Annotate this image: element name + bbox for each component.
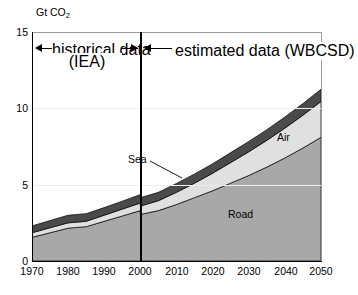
plot-frame-left — [32, 32, 33, 262]
x-tick-label-2000: 2000 — [120, 266, 160, 277]
y-axis-unit-text: Gt CO — [36, 6, 66, 18]
series-label-sea: Sea — [128, 154, 147, 165]
y-tick-label-10: 10 — [2, 103, 28, 114]
historical-arrow-head-left — [35, 44, 42, 52]
x-tick-label-2040: 2040 — [266, 266, 306, 277]
x-tick-label-1970: 1970 — [12, 266, 52, 277]
plot-frame-top — [32, 32, 322, 33]
year-2000-divider — [140, 32, 141, 262]
x-tick-label-1990: 1990 — [84, 266, 124, 277]
series-label-road: Road — [228, 209, 253, 220]
plot-area: historical data (IEA) estimated data (WB… — [32, 32, 322, 262]
y-axis-title: Gt CO2 — [36, 7, 70, 19]
x-tick-label-2010: 2010 — [157, 266, 197, 277]
series-label-air: Air — [277, 132, 290, 143]
historical-label-line2: (IEA) — [52, 53, 122, 71]
gridline-5 — [33, 185, 321, 186]
x-tick-label-1980: 1980 — [48, 266, 88, 277]
y-tick-label-15: 15 — [2, 27, 28, 38]
gridline-10 — [33, 108, 321, 109]
plot-frame-right — [321, 32, 322, 262]
x-tick-label-2050: 2050 — [301, 266, 341, 277]
y-axis-unit-subscript: 2 — [66, 11, 70, 20]
y-tick-label-5: 5 — [2, 180, 28, 191]
x-tick-label-2030: 2030 — [229, 266, 269, 277]
estimated-label: estimated data (WBCSD) — [172, 42, 358, 60]
estimated-arrow-head-left — [144, 44, 151, 52]
x-tick-label-2020: 2020 — [193, 266, 233, 277]
plot-frame-bottom — [32, 261, 322, 262]
y-tick-mark-0 — [0, 3, 4, 4]
sea-leader-line — [150, 158, 184, 180]
